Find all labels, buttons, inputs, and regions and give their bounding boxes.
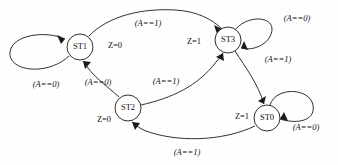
- transition-label-st3-self: (A==0): [284, 13, 311, 23]
- edge-st0-to-st2: [132, 122, 255, 139]
- output-label-st3: Z=1: [187, 36, 201, 46]
- output-label-st2: Z=0: [97, 114, 111, 124]
- transition-label-st1-to-st3: (A==1): [135, 18, 162, 28]
- transition-label-st2-to-st1: (A==0): [85, 77, 112, 87]
- state-diagram: ST1 ST3 ST2 ST0 Z=0 Z=1 Z=0 Z=1 (A==0) (…: [0, 0, 338, 165]
- output-label-st0: Z=1: [235, 111, 249, 121]
- arrowhead-st0-to-st2: [132, 122, 140, 130]
- transition-label-st2-to-st3: (A==1): [153, 76, 180, 86]
- arrowhead-st2-to-st1: [83, 61, 91, 69]
- transition-label-st1-self: (A==0): [33, 79, 60, 89]
- fsm-canvas: ST1 ST3 ST2 ST0 Z=0 Z=1 Z=0 Z=1 (A==0) (…: [0, 0, 338, 165]
- state-label-st2: ST2: [121, 102, 135, 112]
- state-label-st3: ST3: [221, 34, 235, 44]
- state-label-st0: ST0: [260, 112, 274, 122]
- arrowhead-st1-self: [57, 35, 65, 44]
- output-label-st1: Z=0: [108, 40, 122, 50]
- transition-label-st3-to-st0: (A==1): [265, 54, 292, 64]
- edge-st3-to-st0: [235, 51, 264, 104]
- state-label-st1: ST1: [73, 41, 87, 51]
- transition-label-st0-self: (A==0): [293, 122, 320, 132]
- transition-label-st0-to-st2: (A==1): [174, 147, 201, 157]
- arrowhead-st2-to-st3: [216, 53, 224, 61]
